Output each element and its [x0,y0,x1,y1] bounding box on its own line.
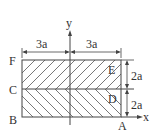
left-width-label: 3a [36,37,48,51]
point-a-label: A [118,119,127,133]
upper-height-label: 2a [131,69,143,83]
point-e-label: E [108,63,115,77]
y-arrow-icon [68,30,72,36]
point-c-label: C [9,83,17,97]
point-d-label: D [108,92,117,106]
x-axis-label: x [143,110,149,124]
field-region-diagram: y x 3a 3a 2a 2a F C B A E D [0,0,157,140]
point-b-label: B [9,113,17,127]
point-f-label: F [9,54,16,68]
lower-height-label: 2a [131,98,143,112]
y-axis-label: y [66,16,72,30]
right-width-label: 3a [86,37,98,51]
